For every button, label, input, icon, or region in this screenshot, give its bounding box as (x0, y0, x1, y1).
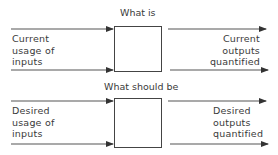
top-output-label-line-3: quantified (210, 56, 260, 68)
top-input-label-line-2: usage of (12, 45, 54, 57)
bottom-input-label: Desired usage of inputs (12, 105, 54, 140)
bottom-output-label-line-3: quantified (213, 128, 263, 140)
bottom-input-label-line-1: Desired (12, 105, 54, 117)
bottom-section-title: What should be (104, 81, 178, 92)
top-output-label: Current outputs quantified (210, 33, 260, 68)
bottom-output-label-line-1: Desired (213, 105, 263, 117)
top-input-label: Current usage of inputs (12, 33, 54, 68)
top-input-label-line-3: inputs (12, 56, 54, 68)
bottom-output-label-line-2: outputs (213, 117, 263, 129)
top-process-box (115, 27, 162, 72)
top-section-title: What is (120, 7, 156, 18)
bottom-process-box (115, 99, 162, 148)
top-output-label-line-1: Current (210, 33, 260, 45)
bottom-input-label-line-3: inputs (12, 128, 54, 140)
bottom-output-label: Desired outputs quantified (213, 105, 263, 140)
bottom-input-label-line-2: usage of (12, 117, 54, 129)
top-input-label-line-1: Current (12, 33, 54, 45)
top-output-label-line-2: outputs (210, 45, 260, 57)
